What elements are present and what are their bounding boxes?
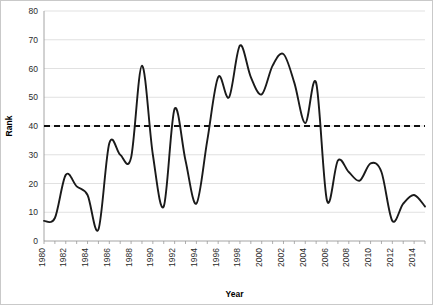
- y-tick-label-40: 40: [29, 121, 39, 131]
- y-axis-title: Rank: [4, 115, 14, 136]
- x-tick-label-2006: 2006: [320, 248, 330, 267]
- x-tick-label-1982: 1982: [58, 248, 68, 267]
- y-tick-label-60: 60: [29, 64, 39, 74]
- x-tick-label-1992: 1992: [167, 248, 177, 267]
- y-tick-label-0: 0: [33, 236, 38, 246]
- x-tick-label-2000: 2000: [254, 248, 264, 267]
- gridlines-group: [44, 11, 425, 212]
- y-tick-label-20: 20: [29, 179, 39, 189]
- chart-figure: 01020304050607080 1980198219841986198819…: [0, 0, 433, 305]
- y-tick-labels-group: 01020304050607080: [29, 6, 39, 246]
- chart-svg: 01020304050607080 1980198219841986198819…: [1, 1, 433, 305]
- y-tick-label-70: 70: [29, 35, 39, 45]
- chart-plot-area: 01020304050607080 1980198219841986198819…: [1, 1, 433, 305]
- x-tick-label-2002: 2002: [276, 248, 286, 267]
- x-tick-label-1998: 1998: [232, 248, 242, 267]
- y-tick-label-30: 30: [29, 150, 39, 160]
- x-tick-label-1994: 1994: [189, 248, 199, 267]
- x-tick-label-1980: 1980: [37, 248, 47, 267]
- x-tick-label-2010: 2010: [363, 248, 373, 267]
- x-tick-label-1990: 1990: [145, 248, 155, 267]
- x-tick-label-2014: 2014: [407, 248, 417, 267]
- x-tick-label-1986: 1986: [102, 248, 112, 267]
- rank-series-line: [44, 45, 425, 231]
- x-tick-label-1984: 1984: [80, 248, 90, 267]
- x-tick-label-2012: 2012: [385, 248, 395, 267]
- x-tick-label-2008: 2008: [341, 248, 351, 267]
- x-tick-label-1988: 1988: [124, 248, 134, 267]
- x-axis-title: Year: [226, 289, 245, 299]
- x-tick-label-2004: 2004: [298, 248, 308, 267]
- x-tick-label-1996: 1996: [211, 248, 221, 267]
- y-tick-label-10: 10: [29, 207, 39, 217]
- x-tick-labels-group: 1980198219841986198819901992199419961998…: [37, 248, 417, 267]
- y-tick-label-50: 50: [29, 92, 39, 102]
- y-tick-label-80: 80: [29, 6, 39, 16]
